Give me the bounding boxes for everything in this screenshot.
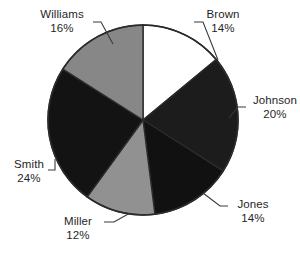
pie-label-miller-name: Miller — [52, 215, 104, 229]
pie-label-williams-name: Williams — [30, 8, 94, 22]
pie-label-brown: Brown 14% — [196, 8, 250, 35]
pie-label-miller: Miller 12% — [52, 215, 104, 242]
pie-label-brown-name: Brown — [196, 8, 250, 22]
pie-label-jones-value: 14% — [229, 212, 277, 226]
pie-chart: Williams 16% Brown 14% Johnson 20% Jones… — [0, 0, 300, 255]
leader-line-jones — [203, 193, 228, 206]
pie-label-williams-value: 16% — [30, 22, 94, 36]
pie-label-williams: Williams 16% — [30, 8, 94, 35]
pie-label-smith-name: Smith — [4, 158, 54, 172]
pie-label-brown-value: 14% — [196, 22, 250, 36]
pie-label-johnson: Johnson 20% — [247, 94, 300, 121]
pie-label-johnson-name: Johnson — [247, 94, 300, 108]
pie-label-johnson-value: 20% — [247, 108, 300, 122]
pie-label-smith: Smith 24% — [4, 158, 54, 185]
leader-line-miller — [104, 213, 130, 222]
pie-label-jones: Jones 14% — [229, 198, 277, 225]
pie-label-jones-name: Jones — [229, 198, 277, 212]
pie-label-smith-value: 24% — [4, 172, 54, 186]
pie-label-miller-value: 12% — [52, 229, 104, 243]
